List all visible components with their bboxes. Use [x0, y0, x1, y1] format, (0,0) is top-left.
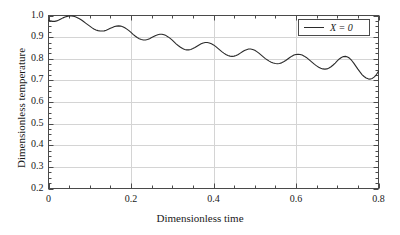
- chart-legend: X = 0: [298, 19, 370, 36]
- x-tick-label: 0.2: [116, 193, 146, 204]
- y-axis-title: Dimensionless temperature: [15, 22, 29, 195]
- x-tick-label: 0.8: [364, 193, 394, 204]
- x-tick-label: 0.4: [199, 193, 229, 204]
- chart-figure: 0.20.30.40.50.60.70.80.91.0 00.20.40.60.…: [0, 0, 400, 235]
- x-axis-title: Dimensionless time: [0, 212, 400, 224]
- y-tick-label: 1.0: [18, 9, 44, 20]
- x-tick-label: 0.6: [281, 193, 311, 204]
- legend-entry-label: X = 0: [330, 22, 353, 33]
- legend-line-swatch: [304, 27, 324, 28]
- gridlines: [49, 16, 379, 189]
- x-tick-label: 0: [34, 193, 64, 204]
